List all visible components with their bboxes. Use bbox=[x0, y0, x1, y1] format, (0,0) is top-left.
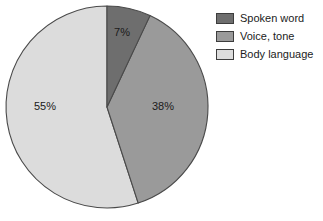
pie-chart-screenshot: 7% 38% 55% Spoken word Voice, tone Body … bbox=[0, 0, 323, 221]
legend-label-body-language: Body language bbox=[240, 48, 313, 61]
pie-chart: 7% 38% 55% Spoken word Voice, tone Body … bbox=[0, 0, 323, 221]
legend-item-body-language[interactable]: Body language bbox=[216, 46, 321, 63]
pie-label-voice-tone: 38% bbox=[152, 100, 174, 112]
chart-legend: Spoken word Voice, tone Body language bbox=[216, 10, 321, 64]
legend-label-spoken-word: Spoken word bbox=[240, 12, 304, 25]
legend-swatch-body-language bbox=[216, 49, 234, 60]
legend-swatch-spoken-word bbox=[216, 13, 234, 24]
pie-label-spoken-word: 7% bbox=[114, 26, 130, 38]
legend-label-voice-tone: Voice, tone bbox=[240, 30, 294, 43]
legend-item-voice-tone[interactable]: Voice, tone bbox=[216, 28, 321, 45]
pie-label-body-language: 55% bbox=[34, 100, 56, 112]
legend-swatch-voice-tone bbox=[216, 31, 234, 42]
legend-item-spoken-word[interactable]: Spoken word bbox=[216, 10, 321, 27]
